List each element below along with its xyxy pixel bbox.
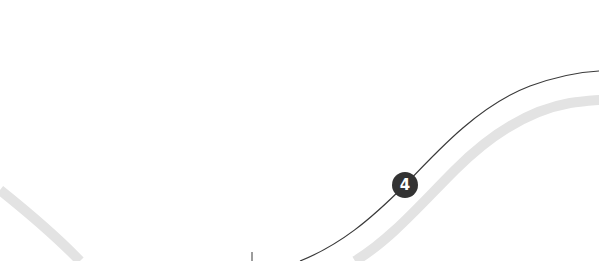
diagram-svg — [0, 0, 599, 261]
step-marker-4: 4 — [392, 172, 418, 198]
step-marker-label: 4 — [400, 178, 410, 193]
diagram-canvas: 4 — [0, 0, 599, 261]
route-line — [300, 71, 599, 261]
gray-band-left — [0, 190, 80, 261]
